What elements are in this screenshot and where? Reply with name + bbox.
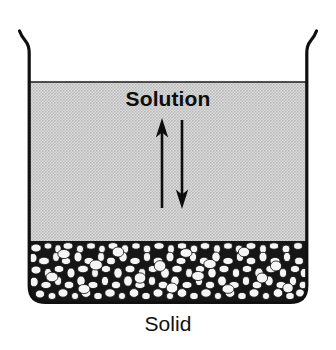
beaker-diagram (0, 0, 336, 350)
solution-label: Solution (0, 88, 336, 109)
solid-label: Solid (0, 313, 336, 334)
solid-particle-bed (26, 239, 310, 305)
solubility-equilibrium-figure: Solution Solid (0, 0, 336, 350)
